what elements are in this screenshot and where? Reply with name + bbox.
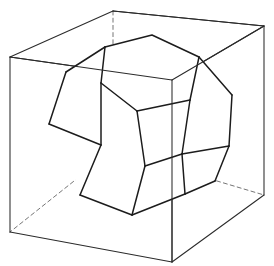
dodecahedron-in-cube-figure [0,0,274,266]
cube-edge-bottom_front-bottom_right [172,195,264,262]
cube-edge-bottom_left-bottom_front [10,232,172,262]
cube-edge-top_back-top_left [10,11,113,57]
dodecahedron-body-fill-group [49,35,232,215]
cube-edge-top-back-right-overlay [113,11,264,26]
dodecahedron-silhouette-fill [49,35,232,215]
figure-container [0,0,274,266]
